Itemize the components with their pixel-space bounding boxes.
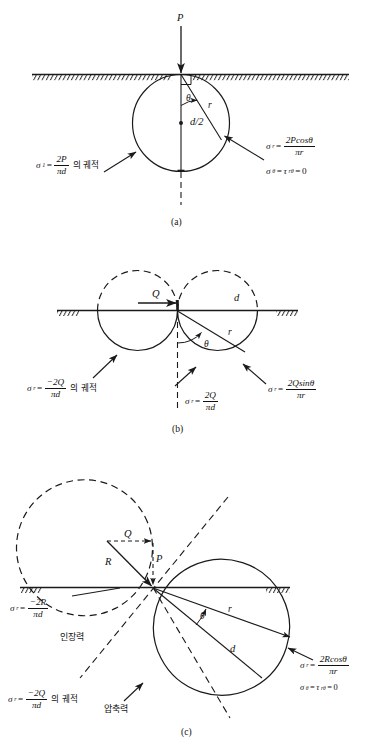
sigma-symbol: σ	[8, 694, 13, 705]
sigma-subscript: θ	[272, 168, 275, 175]
sigma-symbol: σ	[268, 384, 273, 395]
numerator: −2R	[28, 598, 48, 609]
sigma-subscript: r	[14, 696, 16, 703]
denominator: πd	[31, 609, 44, 619]
leader-sigma-r-a	[225, 136, 265, 160]
center-dot-a	[179, 121, 183, 125]
equation-sigma-r-c: σr = 2Rcosθ πr	[300, 655, 350, 676]
load-label-P-a: P	[177, 12, 183, 23]
equals-sign: =	[20, 603, 25, 614]
numerator: −2Q	[45, 378, 66, 389]
equals-sign: =	[278, 384, 283, 395]
equation-hoop-shear-zero-c: σθ = τrθ = 0	[300, 683, 338, 693]
sigma-symbol: σ	[266, 141, 271, 152]
zero-value: 0	[334, 683, 338, 693]
tilted-axis-c-lower	[153, 588, 230, 719]
sigma-symbol: σ	[300, 683, 304, 693]
leader-sigma-1-a	[104, 152, 136, 172]
sigma-subscript: r	[272, 143, 274, 150]
equation-sigma-r-a: σr = 2Pcosθ πr	[266, 136, 316, 157]
sigma-subscript: r	[191, 398, 193, 405]
leader-compression-c	[124, 683, 143, 701]
radius-label-c: r	[228, 604, 232, 614]
sigma-subscript: r	[274, 386, 276, 393]
locus-korean-text: 의 궤적	[51, 695, 78, 705]
theta-label-c: θ	[200, 611, 205, 621]
equation-hoop-shear-zero-a: σθ = τrθ = 0	[266, 166, 307, 177]
equation-tensile-locus-Q-c: σr = −2Q πd 의 궤적	[8, 689, 78, 710]
denominator: πr	[327, 666, 339, 676]
compression-zone-label-c: 압축력	[104, 702, 128, 715]
panel-c-graphics	[0, 456, 313, 718]
denominator: πd	[49, 389, 62, 399]
equation-compressive-locus-b: σr = 2Q πd	[185, 391, 219, 412]
numerator: −2Q	[26, 689, 47, 700]
component-label-Q-c: Q	[124, 528, 132, 539]
equals-sign: =	[47, 160, 52, 171]
equals-sign: =	[277, 166, 282, 177]
sigma-symbol: σ	[27, 383, 32, 394]
equals-sign: =	[195, 396, 200, 407]
sigma-symbol: σ	[300, 660, 305, 671]
theta-label-b: θ	[204, 339, 209, 349]
zero-value: 0	[302, 166, 307, 177]
sigma-subscript: r	[306, 662, 308, 669]
leader-sigma-r-b	[243, 364, 266, 384]
denominator: πd	[204, 402, 217, 412]
panel-label-a: (a)	[171, 217, 182, 227]
radius-label-a: r	[208, 100, 212, 110]
equation-sigma1-locus-a: σ1 = 2P πd 의 궤적	[36, 155, 99, 176]
equals-sign: =	[310, 660, 315, 671]
left-circle-upper-b	[98, 271, 178, 311]
numerator: 2Pcosθ	[284, 136, 315, 147]
leader-mid-locus-b	[175, 367, 196, 386]
resultant-arrow-c	[107, 541, 152, 586]
radius-ray-c	[153, 588, 290, 637]
numerator: 2Qsinθ	[286, 379, 316, 390]
equation-tensile-locus-b: σr = −2Q πd 의 궤적	[27, 378, 97, 399]
tension-zone-label-c: 인장력	[60, 630, 84, 643]
equals-sign: =	[37, 383, 42, 394]
panel-label-b: (b)	[172, 424, 183, 434]
tau-symbol: τ	[316, 683, 319, 693]
tau-subscript: rθ	[288, 168, 293, 175]
sigma-symbol: σ	[10, 603, 15, 614]
denominator: πr	[293, 147, 305, 157]
numerator: 2Rcosθ	[318, 655, 349, 666]
locus-korean-text: 의 궤적	[73, 161, 100, 171]
radius-ray-a	[181, 75, 222, 141]
diameter-label-c: d	[230, 643, 235, 654]
sigma-subscript: r	[16, 605, 18, 612]
equals-sign: =	[18, 694, 23, 705]
equation-sigma-r-b: σr = 2Qsinθ πr	[268, 379, 317, 400]
sigma-subscript: 1	[42, 162, 45, 169]
right-circle-upper-b	[178, 271, 258, 311]
figure-canvas	[0, 0, 381, 748]
left-circle-lower-b	[98, 311, 178, 351]
leader-neg2R-c	[72, 588, 120, 596]
leader-left-locus-b	[93, 355, 117, 378]
denominator: πd	[55, 166, 68, 176]
equals-sign: =	[310, 683, 315, 693]
tau-subscript: rθ	[321, 685, 326, 691]
half-diameter-label-a: d/2	[190, 116, 203, 127]
sigma-symbol: σ	[185, 396, 190, 407]
numerator: 2P	[54, 155, 68, 166]
locus-korean-text: 의 궤적	[70, 384, 97, 394]
equals-sign-2: =	[327, 683, 332, 693]
figure-root: P θ r d/2 σ1 = 2P πd 의 궤적 σr = 2Pcosθ πr…	[0, 0, 381, 748]
sigma-symbol: σ	[36, 160, 41, 171]
radius-ray-b	[178, 311, 246, 352]
diameter-ray-c	[153, 588, 262, 678]
theta-arc-b	[178, 333, 202, 344]
theta-label-a: θ	[186, 93, 191, 103]
diameter-label-b: d	[234, 292, 239, 303]
panel-label-c: (c)	[181, 727, 192, 737]
equals-sign-2: =	[295, 166, 300, 177]
denominator: πd	[30, 700, 43, 710]
load-label-Q-b: Q	[152, 288, 160, 299]
equation-tensile-locus-R-c: σr = −2R πd	[10, 598, 49, 619]
sigma-subscript: r	[33, 385, 35, 392]
equals-sign: =	[276, 141, 281, 152]
component-label-P-c: P	[156, 553, 162, 564]
